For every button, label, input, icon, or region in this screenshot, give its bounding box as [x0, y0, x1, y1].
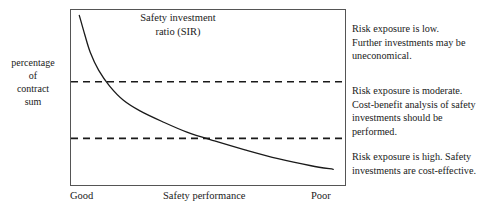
annotation-moderate-risk-line-3: investments should be — [352, 111, 492, 125]
x-tick-label-poor: Poor — [311, 190, 331, 201]
x-tick-label-good: Good — [70, 190, 93, 201]
chart-title: Safety investment ratio (SIR) — [98, 11, 258, 39]
annotation-low-risk-line-2: Further investments may be — [352, 36, 492, 50]
annotation-high-risk: Risk exposure is high. Safety investment… — [352, 150, 492, 177]
annotation-low-risk: Risk exposure is low. Further investment… — [352, 22, 492, 63]
y-axis-label-line-1: percentage — [2, 56, 64, 69]
y-axis-label: percentage of contract sum — [2, 56, 64, 108]
x-axis-title: Safety performance — [163, 190, 246, 201]
annotation-low-risk-line-3: uneconomical. — [352, 49, 492, 63]
annotation-moderate-risk: Risk exposure is moderate. Cost-benefit … — [352, 84, 492, 138]
y-axis-label-line-3: contract — [2, 82, 64, 95]
chart-title-line-2: ratio (SIR) — [98, 25, 258, 39]
safety-investment-ratio-figure: percentage of contract sum Safety invest… — [0, 0, 492, 223]
chart-title-line-1: Safety investment — [98, 11, 258, 25]
annotation-low-risk-line-1: Risk exposure is low. — [352, 22, 492, 36]
y-axis-label-line-4: sum — [2, 95, 64, 108]
annotation-high-risk-line-2: investments are cost-effective. — [352, 164, 492, 178]
annotation-moderate-risk-line-1: Risk exposure is moderate. — [352, 84, 492, 98]
y-axis-label-line-2: of — [2, 69, 64, 82]
annotation-moderate-risk-line-4: performed. — [352, 125, 492, 139]
annotation-moderate-risk-line-2: Cost-benefit analysis of safety — [352, 98, 492, 112]
annotation-high-risk-line-1: Risk exposure is high. Safety — [352, 150, 492, 164]
